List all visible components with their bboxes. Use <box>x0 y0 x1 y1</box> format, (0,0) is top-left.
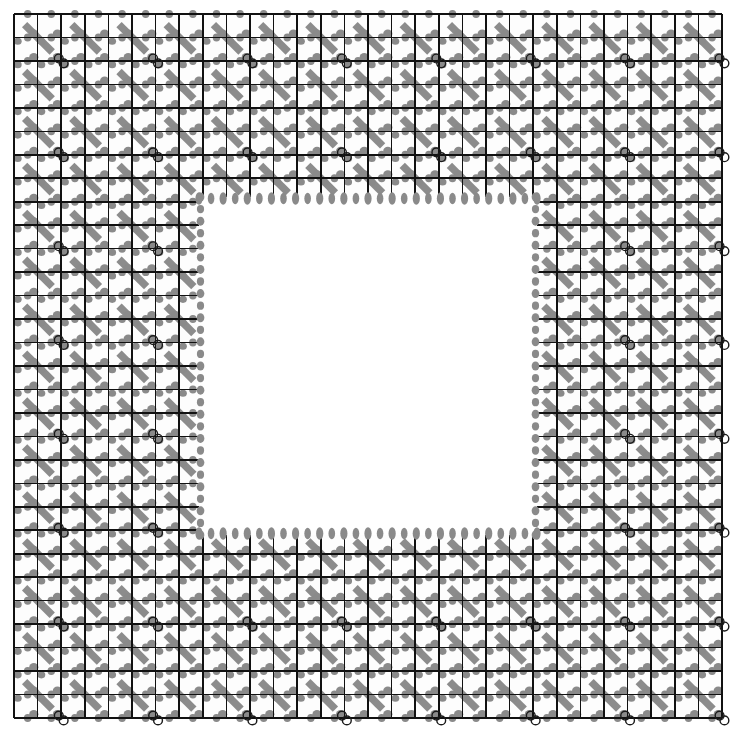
figure-canvas: Hatched grid pattern with central square… <box>0 0 739 742</box>
pattern-figure: Hatched grid pattern with central square… <box>0 0 739 742</box>
cutout-layer <box>199 197 537 535</box>
